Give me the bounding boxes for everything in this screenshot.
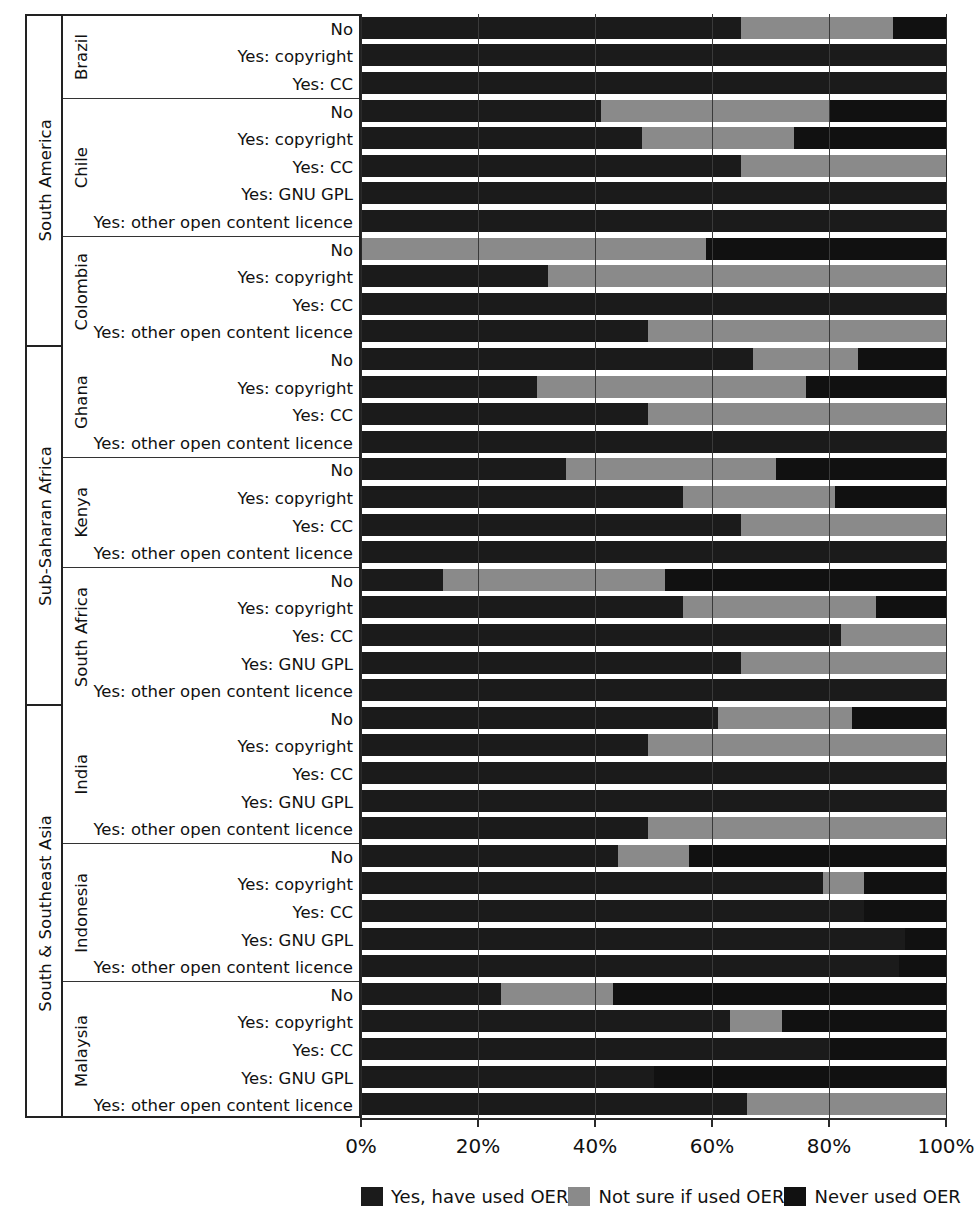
bar-segment-used	[361, 1093, 747, 1115]
bar-row	[361, 431, 946, 453]
bar-segment-never	[689, 845, 946, 867]
bar-row	[361, 679, 946, 701]
row-label: Yes: other open content licence	[93, 215, 353, 232]
row-label: No	[331, 712, 353, 729]
row-label: Yes: other open content licence	[93, 436, 353, 453]
bar-segment-notsure	[718, 707, 853, 729]
legend-swatch-used	[361, 1187, 383, 1206]
legend-swatch-notsure	[568, 1187, 590, 1206]
axis-tick-label: 40%	[573, 1134, 617, 1158]
bar-segment-notsure	[648, 817, 946, 839]
bar-row	[361, 872, 946, 894]
row-label-group: NoYes: copyrightYes: CCYes: other open c…	[99, 347, 359, 456]
bar-segment-used	[361, 431, 946, 453]
country-label-column: BrazilNoYes: copyrightYes: CCChileNoYes:…	[63, 16, 359, 1116]
country-block-colombia: ColombiaNoYes: copyrightYes: CCYes: othe…	[63, 237, 359, 347]
bar-segment-never	[829, 100, 946, 122]
bar-row	[361, 293, 946, 315]
region-label-text: South & Southeast Asia	[36, 815, 55, 1012]
row-label: No	[331, 104, 353, 121]
row-label: No	[331, 463, 353, 480]
bar-segment-used	[361, 569, 443, 591]
bar-segment-used	[361, 679, 946, 701]
country-label-text: Malaysia	[72, 1015, 91, 1087]
gridline	[595, 14, 596, 1118]
row-label: Yes: GNU GPL	[241, 656, 353, 673]
bar-segment-used	[361, 72, 946, 94]
bar-segment-never	[876, 596, 946, 618]
bar-row	[361, 845, 946, 867]
gridline	[829, 14, 830, 1118]
bar-segment-notsure	[642, 127, 794, 149]
bar-row	[361, 1066, 946, 1088]
bar-segment-never	[794, 127, 946, 149]
bar-segment-notsure	[730, 1010, 783, 1032]
bar-segment-notsure	[841, 624, 946, 646]
bar-segment-used	[361, 624, 841, 646]
row-label: Yes: CC	[293, 629, 353, 646]
bar-segment-never	[899, 955, 946, 977]
bar-row	[361, 155, 946, 177]
bar-segment-notsure	[741, 155, 946, 177]
bar-row	[361, 762, 946, 784]
row-label: Yes: copyright	[237, 601, 353, 618]
bar-segment-never	[665, 569, 946, 591]
bar-row	[361, 486, 946, 508]
region-label-column: South AmericaSub-Saharan AfricaSouth & S…	[27, 16, 63, 1116]
row-label: No	[331, 850, 353, 867]
row-label: No	[331, 574, 353, 591]
bar-segment-notsure	[648, 403, 946, 425]
country-block-india: IndiaNoYes: copyrightYes: CCYes: GNU GPL…	[63, 706, 359, 844]
bar-segment-never	[829, 1038, 946, 1060]
bar-segment-used	[361, 1066, 654, 1088]
bar-row	[361, 624, 946, 646]
country-block-chile: ChileNoYes: copyrightYes: CCYes: GNU GPL…	[63, 99, 359, 237]
row-label-group: NoYes: copyrightYes: CCYes: GNU GPLYes: …	[99, 568, 359, 706]
axis-tick	[594, 1118, 596, 1127]
bar-row	[361, 17, 946, 39]
bar-segment-used	[361, 44, 946, 66]
axis-tick-label: 20%	[456, 1134, 500, 1158]
bar-segment-used	[361, 734, 648, 756]
bar-segment-notsure	[361, 238, 706, 260]
bar-row	[361, 238, 946, 260]
bar-row	[361, 458, 946, 480]
region-label-south-southeast-asia: South & Southeast Asia	[27, 706, 63, 1120]
row-label: Yes: other open content licence	[93, 546, 353, 563]
bar-segment-used	[361, 265, 548, 287]
bar-segment-never	[776, 458, 946, 480]
bar-segment-used	[361, 376, 537, 398]
country-label: Brazil	[63, 16, 99, 98]
gridline	[361, 14, 362, 1118]
country-label-text: Ghana	[72, 375, 91, 429]
bar-row	[361, 320, 946, 342]
axis-baseline	[361, 1118, 946, 1120]
bar-row	[361, 127, 946, 149]
bar-row	[361, 955, 946, 977]
bar-segment-used	[361, 182, 946, 204]
bar-row	[361, 790, 946, 812]
bar-row	[361, 569, 946, 591]
bar-segment-used	[361, 872, 823, 894]
bar-segment-used	[361, 155, 741, 177]
country-label-text: India	[72, 754, 91, 795]
bar-segment-never	[905, 928, 946, 950]
bar-segment-used	[361, 790, 946, 812]
bar-segment-used	[361, 983, 501, 1005]
row-label: Yes: copyright	[237, 491, 353, 508]
category-label-panel: South AmericaSub-Saharan AfricaSouth & S…	[25, 14, 361, 1118]
country-label-text: Brazil	[72, 34, 91, 80]
bar-segment-never	[893, 17, 946, 39]
country-block-south-africa: South AfricaNoYes: copyrightYes: CCYes: …	[63, 568, 359, 706]
legend-swatch-never	[784, 1187, 806, 1206]
row-label: Yes: copyright	[237, 739, 353, 756]
bar-row	[361, 1010, 946, 1032]
bar-segment-never	[864, 900, 946, 922]
country-label-text: South Africa	[72, 587, 91, 687]
row-label: No	[331, 988, 353, 1005]
axis-tick-label: 0%	[345, 1134, 377, 1158]
bar-segment-used	[361, 348, 753, 370]
row-label: Yes: CC	[293, 160, 353, 177]
bar-row	[361, 596, 946, 618]
bar-row	[361, 983, 946, 1005]
